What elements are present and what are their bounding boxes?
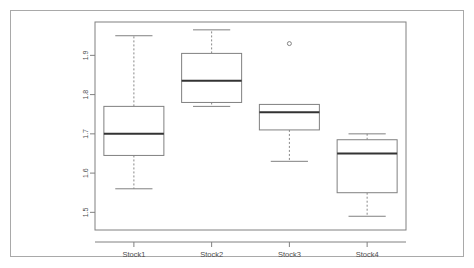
- box-stock3: [259, 104, 319, 130]
- box-stock4: [337, 140, 397, 193]
- x-axis-tick-label: Stock2: [200, 250, 223, 259]
- x-axis-tick-label: Stock1: [122, 250, 145, 259]
- figure-root: 1.51.61.71.81.9Stock1Stock2Stock3Stock4: [0, 0, 474, 268]
- boxplot-chart: 1.51.61.71.81.9Stock1Stock2Stock3Stock4: [0, 0, 474, 268]
- y-axis-tick-label: 1.6: [83, 168, 90, 178]
- y-axis-tick-label: 1.7: [83, 129, 90, 139]
- outlier-point: [287, 42, 291, 46]
- y-axis-tick-label: 1.5: [83, 207, 90, 217]
- y-axis-tick-label: 1.8: [83, 90, 90, 100]
- y-axis-tick-label: 1.9: [83, 50, 90, 60]
- box-stock2: [182, 53, 242, 102]
- box-stock1: [104, 106, 164, 155]
- x-axis-tick-label: Stock4: [356, 250, 379, 259]
- x-axis-tick-label: Stock3: [278, 250, 301, 259]
